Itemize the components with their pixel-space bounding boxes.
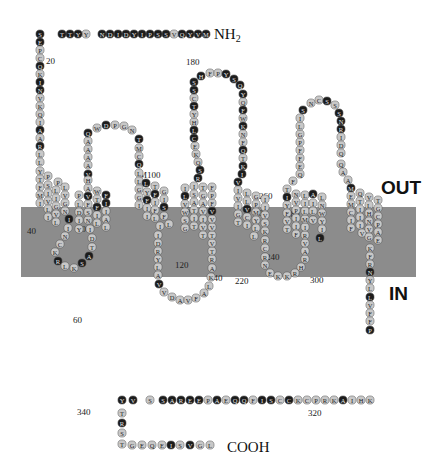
residue: C — [303, 396, 311, 404]
position-number: 220 — [235, 276, 249, 286]
svg-text:G: G — [376, 205, 381, 212]
svg-text:K: K — [276, 273, 281, 280]
svg-text:E: E — [193, 143, 197, 150]
residue: L — [365, 201, 373, 209]
residue: I — [356, 205, 364, 213]
svg-text:K: K — [263, 228, 268, 235]
svg-text:K: K — [332, 397, 337, 404]
svg-text:C: C — [305, 397, 309, 404]
svg-text:W: W — [319, 210, 326, 217]
residue: R — [366, 260, 374, 268]
svg-text:I: I — [68, 216, 70, 223]
svg-text:T: T — [201, 184, 205, 191]
svg-text:A: A — [376, 229, 381, 236]
residue: R — [301, 231, 309, 239]
residue: V — [283, 217, 291, 225]
svg-text:I: I — [141, 31, 143, 38]
svg-text:I: I — [241, 171, 243, 178]
svg-text:L: L — [104, 224, 108, 231]
svg-text:N: N — [38, 87, 43, 94]
topology-diagram: 20406080M1001201401601802002202402602803… — [0, 0, 440, 468]
svg-text:I: I — [105, 200, 107, 207]
position-number: 60 — [73, 315, 83, 325]
residue: Q — [135, 160, 143, 168]
residue: K — [239, 162, 247, 170]
svg-text:F: F — [153, 191, 157, 198]
svg-text:G: G — [298, 131, 303, 138]
svg-text:A: A — [201, 200, 206, 207]
svg-text:L: L — [320, 194, 324, 201]
residue: A — [84, 145, 92, 153]
residue: I — [138, 30, 146, 38]
residue: S — [267, 396, 275, 404]
svg-text:V: V — [368, 302, 373, 309]
residue: I — [190, 214, 198, 222]
residue: G — [61, 199, 69, 207]
svg-text:R: R — [210, 256, 215, 263]
residue: K — [283, 272, 291, 280]
svg-text:Q: Q — [339, 161, 344, 168]
svg-text:I: I — [202, 216, 204, 223]
svg-text:S: S — [232, 76, 236, 83]
residue: T — [66, 30, 74, 38]
residue: I — [261, 203, 269, 211]
residue: T — [283, 185, 291, 193]
residue: M — [135, 144, 143, 152]
position-number: 320 — [308, 408, 322, 418]
svg-text:V: V — [303, 240, 308, 247]
svg-text:A: A — [156, 272, 161, 279]
residue: F — [36, 183, 44, 191]
residue: G — [252, 192, 260, 200]
svg-text:Q: Q — [238, 82, 243, 89]
residue: R — [36, 142, 44, 150]
residue: G — [196, 441, 204, 449]
svg-text:G: G — [130, 442, 135, 449]
residue: N — [318, 201, 326, 209]
residue: T — [93, 195, 101, 203]
svg-text:V: V — [210, 208, 215, 215]
svg-text:C: C — [349, 209, 353, 216]
residue: S — [261, 219, 269, 227]
residue: M — [347, 184, 355, 192]
residue: L — [102, 223, 110, 231]
svg-text:K: K — [38, 103, 43, 110]
svg-text:V: V — [311, 217, 316, 224]
residue: I — [65, 215, 73, 223]
residue: G — [160, 187, 168, 195]
residue: G — [135, 193, 143, 201]
svg-text:K: K — [285, 273, 290, 280]
residue: L — [316, 234, 324, 242]
residue: I — [64, 224, 72, 232]
residue: F — [151, 206, 159, 214]
svg-text:A: A — [104, 216, 109, 223]
residue: I — [102, 207, 110, 215]
residue: L — [206, 441, 214, 449]
svg-text:F: F — [368, 253, 372, 260]
residue: G — [199, 191, 207, 199]
svg-text:M: M — [348, 201, 354, 208]
svg-text:S: S — [325, 98, 329, 105]
svg-text:Q: Q — [241, 147, 246, 154]
residue: N — [98, 30, 106, 38]
svg-text:L: L — [38, 159, 42, 166]
svg-text:G: G — [162, 188, 167, 195]
svg-text:V: V — [236, 179, 241, 186]
svg-text:R: R — [56, 258, 61, 265]
svg-text:Y: Y — [76, 31, 81, 38]
svg-text:N: N — [100, 31, 105, 38]
svg-text:K: K — [209, 274, 214, 281]
residue: L — [52, 218, 60, 226]
residue: N — [61, 232, 69, 240]
svg-text:I: I — [321, 226, 323, 233]
residue: V — [44, 197, 52, 205]
svg-text:F: F — [241, 139, 245, 146]
residue: T — [58, 30, 66, 38]
svg-text:I: I — [237, 187, 239, 194]
svg-text:R: R — [368, 261, 373, 268]
residue: F — [283, 209, 291, 217]
svg-text:S: S — [120, 430, 124, 437]
svg-text:V: V — [360, 230, 365, 237]
svg-text:G: G — [254, 193, 259, 200]
residue: A — [85, 252, 93, 260]
residue: V — [170, 30, 178, 38]
